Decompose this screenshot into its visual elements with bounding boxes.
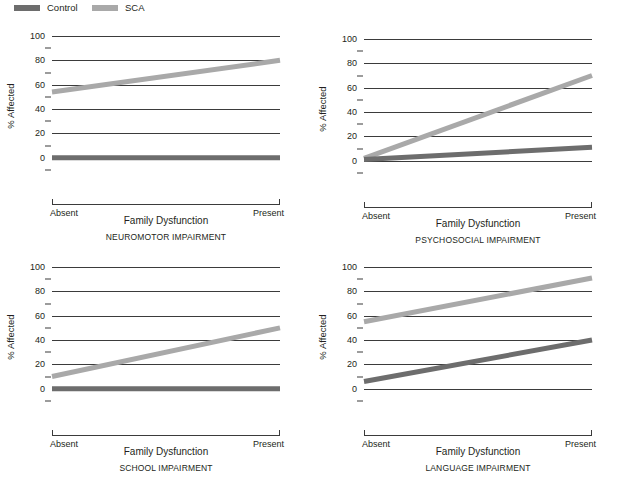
plot-wrapper: 020406080100 Absent Present: [364, 267, 592, 407]
y-minor-tick: [357, 75, 363, 76]
y-tick-label: 80: [15, 56, 45, 65]
series-lines: [52, 267, 280, 407]
y-minor-tick: [357, 400, 363, 401]
series-lines: [364, 39, 592, 179]
x-tick: [591, 430, 592, 435]
y-minor-tick: [45, 400, 51, 401]
panel-title: PSYCHOSOCIAL IMPAIRMENT: [364, 235, 592, 245]
plot-wrapper: 020406080100 Absent Present: [52, 36, 280, 176]
y-minor-tick: [357, 51, 363, 52]
y-tick-label: 60: [327, 311, 357, 320]
y-minor-tick: [357, 352, 363, 353]
y-axis-label: % Affected: [5, 314, 16, 359]
panel-school-impairment: % Affected 020406080100 Absent Present F…: [0, 253, 312, 484]
y-minor-tick: [45, 48, 51, 49]
y-minor-tick: [357, 124, 363, 125]
series-line-sca: [364, 76, 592, 159]
series-line-sca: [52, 60, 280, 92]
plot-wrapper: 020406080100 Absent Present: [364, 39, 592, 179]
y-axis-label: % Affected: [317, 86, 328, 131]
y-tick-label: 40: [327, 108, 357, 117]
y-tick-label: 20: [327, 132, 357, 141]
plot-wrapper: 020406080100 Absent Present: [52, 267, 280, 407]
legend-swatch-icon: [92, 5, 118, 11]
y-minor-tick: [45, 72, 51, 73]
y-minor-tick: [45, 121, 51, 122]
y-tick-label: 40: [15, 336, 45, 345]
x-tick: [52, 199, 53, 204]
x-axis: [364, 207, 592, 208]
y-axis-label: % Affected: [317, 314, 328, 359]
y-minor-tick: [357, 376, 363, 377]
x-tick: [52, 430, 53, 435]
y-tick-label: 80: [327, 287, 357, 296]
panel-psychosocial-impairment: % Affected 020406080100 Absent Present F…: [312, 25, 624, 256]
panel-x-axis-title: Family Dysfunction: [52, 215, 280, 226]
series-lines: [52, 36, 280, 176]
panel-title: NEUROMOTOR IMPAIRMENT: [52, 232, 280, 242]
x-tick: [279, 430, 280, 435]
y-tick-label: 0: [15, 384, 45, 393]
panel-grid: % Affected 020406080100 Absent Present F…: [0, 22, 624, 484]
y-minor-tick: [45, 96, 51, 97]
y-minor-tick: [45, 352, 51, 353]
y-minor-tick: [45, 145, 51, 146]
legend-item-sca: SCA: [92, 3, 145, 13]
y-tick-label: 0: [327, 156, 357, 165]
y-tick-label: 0: [15, 153, 45, 162]
y-tick-label: 40: [15, 105, 45, 114]
legend-label: SCA: [125, 3, 145, 13]
series-line-sca: [52, 328, 280, 377]
panel-x-axis-title: Family Dysfunction: [364, 218, 592, 229]
x-axis: [364, 435, 592, 436]
y-minor-tick: [45, 279, 51, 280]
x-tick: [279, 199, 280, 204]
y-tick-label: 80: [327, 59, 357, 68]
y-tick-label: 100: [15, 32, 45, 41]
y-minor-tick: [357, 279, 363, 280]
y-tick-label: 20: [15, 360, 45, 369]
y-tick-label: 60: [15, 311, 45, 320]
series-line-sca: [364, 278, 592, 322]
y-minor-tick: [45, 376, 51, 377]
x-tick: [364, 430, 365, 435]
y-tick-label: 100: [327, 35, 357, 44]
y-minor-tick: [357, 172, 363, 173]
legend-label: Control: [47, 3, 78, 13]
y-tick-label: 0: [327, 384, 357, 393]
chart-legend: Control SCA: [0, 0, 624, 22]
y-tick-label: 80: [15, 287, 45, 296]
y-minor-tick: [357, 99, 363, 100]
y-minor-tick: [45, 169, 51, 170]
panel-title: SCHOOL IMPAIRMENT: [52, 463, 280, 473]
panel-neuromotor-impairment: % Affected 020406080100 Absent Present F…: [0, 22, 312, 253]
y-tick-label: 60: [327, 83, 357, 92]
y-tick-label: 100: [327, 263, 357, 272]
y-tick-label: 20: [15, 129, 45, 138]
y-axis-label: % Affected: [5, 83, 16, 128]
legend-item-control: Control: [14, 3, 78, 13]
y-tick-label: 20: [327, 360, 357, 369]
y-minor-tick: [357, 303, 363, 304]
y-tick-label: 40: [327, 336, 357, 345]
y-minor-tick: [357, 148, 363, 149]
panel-x-axis-title: Family Dysfunction: [52, 446, 280, 457]
y-minor-tick: [45, 327, 51, 328]
x-axis: [52, 435, 280, 436]
series-line-control: [364, 147, 592, 159]
panel-x-axis-title: Family Dysfunction: [364, 446, 592, 457]
x-tick: [364, 202, 365, 207]
x-tick: [591, 202, 592, 207]
x-axis: [52, 204, 280, 205]
y-minor-tick: [45, 303, 51, 304]
panel-language-impairment: % Affected 020406080100 Absent Present F…: [312, 253, 624, 484]
series-line-control: [364, 340, 592, 381]
y-tick-label: 100: [15, 263, 45, 272]
panel-title: LANGUAGE IMPAIRMENT: [364, 463, 592, 473]
series-lines: [364, 267, 592, 407]
y-minor-tick: [357, 327, 363, 328]
legend-swatch-icon: [14, 5, 40, 11]
y-tick-label: 60: [15, 80, 45, 89]
